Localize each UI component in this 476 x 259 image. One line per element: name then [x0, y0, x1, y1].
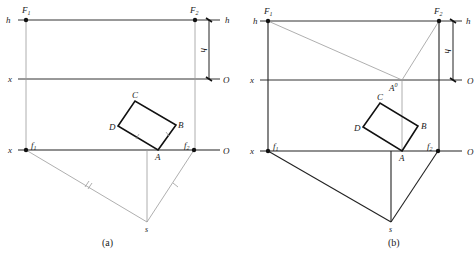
label-h-left: h: [253, 16, 258, 26]
label-x-upper: x: [7, 74, 12, 84]
label-F1: F1: [21, 5, 31, 16]
label-h-right: h: [225, 15, 230, 25]
sight-line-f1-s: [26, 150, 147, 222]
point-f2: [436, 149, 440, 153]
label-F1: F1: [263, 6, 273, 17]
label-A: A: [154, 152, 161, 162]
label-f2: f2: [427, 141, 433, 152]
label-F2: F2: [189, 5, 199, 16]
label-x-upper: x: [249, 75, 254, 85]
label-D: D: [108, 122, 116, 132]
label-h-dimension: h: [443, 49, 453, 54]
label-o-upper: O: [467, 76, 474, 86]
label-B: B: [178, 120, 184, 130]
label-f1: f1: [273, 141, 279, 152]
sight-line-f1-s: [268, 151, 391, 222]
point-F2: [193, 18, 197, 22]
point-f1: [266, 149, 270, 153]
vanishing-line-F1-A0: [268, 21, 402, 80]
label-s: s: [389, 225, 392, 234]
plan-rectangle: [363, 103, 418, 151]
label-o-upper: O: [223, 75, 230, 85]
vanishing-line-F2-A0: [402, 21, 439, 80]
panel-b: h h h x O x O F1 F2 f1 f2 A0 A B C D s (…: [249, 6, 474, 249]
perspective-diagram: h h h x O x O F1 F2 f1 f2 A B C D s (a): [0, 0, 476, 259]
caption-a: (a): [102, 237, 113, 249]
label-s: s: [145, 225, 148, 234]
label-h-right: h: [466, 16, 471, 26]
label-F2: F2: [433, 6, 443, 17]
point-F1: [266, 19, 270, 23]
label-A: A: [398, 153, 405, 163]
label-o-lower: O: [467, 147, 474, 157]
label-C: C: [132, 90, 139, 100]
label-D: D: [353, 123, 361, 133]
label-B: B: [421, 121, 427, 131]
point-f1: [24, 148, 28, 152]
plan-rectangle: [118, 101, 176, 150]
label-h-dimension: h: [199, 48, 209, 53]
panel-a: h h h x O x O F1 F2 f1 f2 A B C D s (a): [6, 5, 230, 249]
label-x-lower: x: [7, 145, 12, 155]
label-f2: f2: [184, 140, 190, 151]
label-o-lower: O: [223, 146, 230, 156]
label-A0: A0: [388, 82, 398, 93]
point-f2: [192, 148, 196, 152]
label-C: C: [377, 92, 384, 102]
label-h-left: h: [6, 15, 11, 25]
point-F1: [24, 18, 28, 22]
label-f1: f1: [31, 140, 37, 151]
point-F2: [437, 19, 441, 23]
caption-b: (b): [388, 237, 400, 249]
label-x-lower: x: [249, 146, 254, 156]
